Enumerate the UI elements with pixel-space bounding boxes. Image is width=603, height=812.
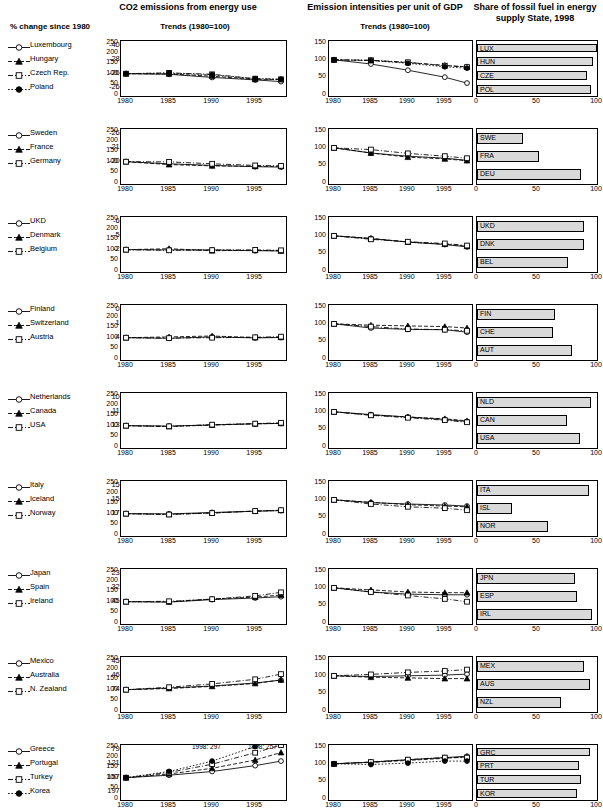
fossil-share-bar-chart: MEXAUSNZL bbox=[476, 656, 598, 713]
y-axis-tick: 50 bbox=[308, 688, 326, 695]
x-axis-tick: 1985 bbox=[358, 361, 382, 368]
y-axis-tick: 50 bbox=[100, 695, 118, 702]
x-axis-tick: 1980 bbox=[113, 273, 137, 280]
x-axis-tick: 1990 bbox=[395, 801, 419, 808]
country-code-label: FIN bbox=[480, 310, 491, 317]
y-axis-tick: 150 bbox=[308, 38, 326, 45]
y-axis-tick: 200 bbox=[100, 48, 118, 55]
x-axis-tick: 1995 bbox=[242, 449, 266, 456]
x-axis-tick: 1990 bbox=[395, 273, 419, 280]
bar-axis-tick: 100 bbox=[588, 801, 603, 808]
bar-axis-tick: 50 bbox=[528, 801, 544, 808]
bar-axis-tick: 0 bbox=[468, 361, 484, 368]
legend-country-name: Ireland bbox=[30, 596, 53, 605]
x-axis-tick: 1995 bbox=[432, 537, 456, 544]
y-axis-tick: 200 bbox=[100, 400, 118, 407]
intensity-trend-plot bbox=[328, 128, 473, 185]
x-axis-tick: 1990 bbox=[395, 625, 419, 632]
y-axis-tick: 100 bbox=[100, 421, 118, 428]
y-axis-tick: 100 bbox=[100, 69, 118, 76]
y-axis-tick: 150 bbox=[100, 586, 118, 593]
x-axis-tick: 1985 bbox=[358, 97, 382, 104]
x-axis-tick: 1985 bbox=[358, 537, 382, 544]
fossil-share-bar bbox=[477, 85, 591, 94]
bar-axis-tick: 100 bbox=[588, 185, 603, 192]
bar-axis-tick: 0 bbox=[468, 185, 484, 192]
y-axis-tick: 250 bbox=[100, 654, 118, 661]
y-axis-tick: 50 bbox=[100, 431, 118, 438]
x-axis-tick: 1990 bbox=[199, 273, 223, 280]
y-axis-tick: 150 bbox=[100, 410, 118, 417]
y-axis-tick: 250 bbox=[100, 214, 118, 221]
x-axis-tick: 1985 bbox=[358, 449, 382, 456]
bar-axis-tick: 50 bbox=[528, 449, 544, 456]
x-axis-tick: 1985 bbox=[358, 801, 382, 808]
x-axis-tick: 1990 bbox=[395, 185, 419, 192]
x-axis-tick: 1980 bbox=[113, 449, 137, 456]
y-axis-tick: 100 bbox=[100, 245, 118, 252]
x-axis-tick: 1980 bbox=[113, 801, 137, 808]
y-axis-tick: 250 bbox=[100, 478, 118, 485]
country-code-label: AUT bbox=[480, 346, 494, 353]
country-code-label: PRT bbox=[480, 762, 494, 769]
y-axis-tick: 100 bbox=[308, 671, 326, 678]
x-axis-tick: 1980 bbox=[113, 713, 137, 720]
y-axis-tick: 0 bbox=[308, 266, 326, 273]
fossil-share-bar-chart: FINCHEAUT bbox=[476, 304, 598, 361]
x-axis-tick: 1980 bbox=[321, 361, 345, 368]
y-axis-tick: 200 bbox=[100, 752, 118, 759]
y-axis-tick: 0 bbox=[308, 618, 326, 625]
country-code-label: BEL bbox=[480, 258, 493, 265]
country-code-label: CZE bbox=[480, 72, 494, 79]
y-axis-tick: 150 bbox=[100, 498, 118, 505]
y-axis-tick: 150 bbox=[100, 146, 118, 153]
country-code-label: USA bbox=[480, 434, 494, 441]
legend-country-name: Sweden bbox=[30, 128, 57, 137]
y-axis-tick: 200 bbox=[100, 664, 118, 671]
bar-axis-tick: 50 bbox=[528, 537, 544, 544]
intensity-trend-plot bbox=[328, 304, 473, 361]
x-axis-tick: 1985 bbox=[358, 713, 382, 720]
y-axis-tick: 0 bbox=[100, 706, 118, 713]
y-axis-tick: 0 bbox=[308, 354, 326, 361]
fossil-share-bar bbox=[477, 485, 589, 496]
y-axis-tick: 50 bbox=[308, 776, 326, 783]
fossil-share-bar-chart: GRCPRTTURKOR bbox=[476, 744, 598, 801]
y-axis-tick: 250 bbox=[100, 38, 118, 45]
fossil-share-bar-chart: ITAISLNOR bbox=[476, 480, 598, 537]
legend-country-name: Spain bbox=[30, 582, 49, 591]
country-code-label: UKD bbox=[480, 222, 495, 229]
y-axis-tick: 100 bbox=[100, 157, 118, 164]
country-code-label: ESP bbox=[480, 592, 494, 599]
y-axis-tick: 0 bbox=[308, 530, 326, 537]
y-axis-tick: 0 bbox=[100, 354, 118, 361]
intensity-trend-plot bbox=[328, 744, 473, 801]
country-code-label: ITA bbox=[480, 486, 490, 493]
x-axis-tick: 1995 bbox=[242, 713, 266, 720]
x-axis-tick: 1980 bbox=[113, 97, 137, 104]
y-axis-tick: 0 bbox=[308, 90, 326, 97]
bar-axis-tick: 100 bbox=[588, 537, 603, 544]
legend-country-name: Italy bbox=[30, 480, 44, 489]
x-axis-tick: 1995 bbox=[242, 801, 266, 808]
y-axis-tick: 200 bbox=[100, 224, 118, 231]
country-code-label: MEX bbox=[480, 662, 495, 669]
x-axis-tick: 1990 bbox=[395, 537, 419, 544]
y-axis-tick: 0 bbox=[100, 178, 118, 185]
value-annotation: 1998: 257 bbox=[248, 743, 277, 750]
bar-axis-tick: 0 bbox=[468, 625, 484, 632]
subtitle-trends-intensity: Trends (1980=100) bbox=[320, 22, 470, 31]
y-axis-tick: 50 bbox=[100, 343, 118, 350]
x-axis-tick: 1990 bbox=[395, 449, 419, 456]
legend-country-name: Mexico bbox=[30, 656, 54, 665]
fossil-share-bar-chart: SWEFRADEU bbox=[476, 128, 598, 185]
country-code-label: GRC bbox=[480, 749, 496, 756]
y-axis-tick: 150 bbox=[308, 654, 326, 661]
country-code-label: FRA bbox=[480, 152, 494, 159]
country-code-label: AUS bbox=[480, 680, 494, 687]
y-axis-tick: 150 bbox=[308, 478, 326, 485]
bar-axis-tick: 100 bbox=[588, 713, 603, 720]
country-code-label: LUX bbox=[480, 45, 494, 52]
y-axis-tick: 0 bbox=[100, 618, 118, 625]
y-axis-tick: 50 bbox=[308, 248, 326, 255]
